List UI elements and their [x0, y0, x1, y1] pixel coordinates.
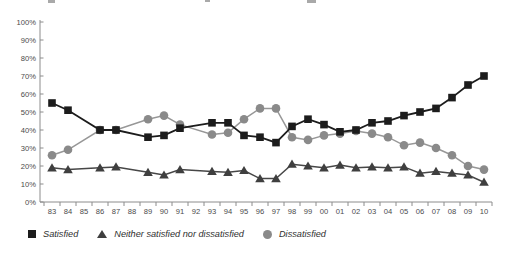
circle-data-point [144, 115, 153, 124]
y-axis-tick-label: 0% [25, 198, 36, 207]
x-axis-tick-label: 86 [96, 207, 104, 216]
x-axis-tick-label: 90 [160, 207, 168, 216]
y-axis-tick-label: 60% [21, 90, 36, 99]
x-axis-tick-label: 03 [368, 207, 376, 216]
legend-item-satisfied: Satisfied [28, 229, 78, 239]
legend-label-neither: Neither satisfied nor dissatisfied [114, 229, 244, 239]
square-data-point [48, 99, 56, 107]
circle-data-point [288, 133, 297, 142]
circle-data-point [320, 131, 329, 140]
circle-data-point [368, 129, 377, 138]
x-axis-tick-label: 00 [320, 207, 328, 216]
legend-label-satisfied: Satisfied [43, 229, 78, 239]
circle-data-point [432, 144, 441, 153]
square-data-point [416, 108, 424, 116]
square-data-point [304, 115, 312, 123]
square-data-point [144, 133, 152, 141]
triangle-data-point [239, 166, 249, 174]
y-axis-tick-label: 20% [21, 162, 36, 171]
square-data-point [400, 112, 408, 120]
circle-data-point [416, 138, 425, 147]
x-axis-tick-label: 96 [256, 207, 264, 216]
square-data-point [160, 132, 168, 140]
x-axis-tick-label: 91 [176, 207, 184, 216]
square-data-point [448, 94, 456, 102]
square-data-point [272, 139, 280, 147]
square-data-point [288, 123, 296, 131]
x-axis-tick-label: 08 [448, 207, 456, 216]
y-axis-tick-label: 40% [21, 126, 36, 135]
x-axis-tick-label: 94 [224, 207, 232, 216]
circle-data-point [160, 111, 169, 120]
x-axis-tick-label: 10 [480, 207, 488, 216]
circle-data-point [208, 130, 217, 139]
square-data-point [176, 124, 184, 132]
circle-data-point [272, 104, 281, 113]
circle-data-point [256, 104, 265, 113]
circle-data-point [448, 151, 457, 160]
triangle-data-point [335, 161, 345, 169]
y-axis-tick-label: 80% [21, 54, 36, 63]
x-axis-tick-label: 85 [80, 207, 88, 216]
x-axis-tick-label: 88 [128, 207, 136, 216]
circle-data-point [64, 146, 73, 155]
y-axis-tick-label: 90% [21, 36, 36, 45]
y-axis-tick-label: 100% [17, 18, 37, 27]
x-axis-tick-label: 05 [400, 207, 408, 216]
square-data-point [352, 126, 360, 134]
x-axis-tick-label: 84 [64, 207, 72, 216]
line-chart-canvas: 0%10%20%30%40%50%60%70%80%90%100%8384858… [0, 0, 505, 225]
y-axis-tick-label: 70% [21, 72, 36, 81]
square-data-point [64, 106, 72, 114]
square-data-point [464, 81, 472, 89]
square-data-point [240, 132, 248, 140]
circle-marker-icon [263, 230, 272, 239]
x-axis-tick-label: 02 [352, 207, 360, 216]
square-data-point [336, 128, 344, 136]
circle-data-point [464, 162, 473, 171]
circle-data-point [400, 141, 409, 150]
x-axis-tick-label: 89 [144, 207, 152, 216]
triangle-data-point [479, 178, 489, 186]
square-data-point [384, 117, 392, 125]
x-axis-tick-label: 09 [464, 207, 472, 216]
circle-data-point [480, 165, 489, 174]
legend-item-neither: Neither satisfied nor dissatisfied [97, 229, 244, 239]
square-data-point [96, 126, 104, 134]
x-axis-tick-label: 98 [288, 207, 296, 216]
square-marker-icon [28, 230, 36, 238]
triangle-data-point [47, 163, 57, 171]
x-axis-tick-label: 92 [192, 207, 200, 216]
chart-legend: Satisfied Neither satisfied nor dissatis… [28, 229, 326, 239]
circle-data-point [304, 136, 313, 145]
x-axis-tick-label: 83 [48, 207, 56, 216]
x-axis-tick-label: 87 [112, 207, 120, 216]
x-axis-tick-label: 01 [336, 207, 344, 216]
x-axis-tick-label: 93 [208, 207, 216, 216]
circle-data-point [224, 128, 233, 137]
triangle-marker-icon [97, 230, 107, 238]
square-data-point [480, 72, 488, 80]
legend-item-dissatisfied: Dissatisfied [263, 229, 326, 239]
y-axis-tick-label: 10% [21, 180, 36, 189]
circle-data-point [48, 151, 57, 160]
legend-label-dissatisfied: Dissatisfied [279, 229, 326, 239]
square-data-point [432, 105, 440, 113]
square-data-point [256, 133, 264, 141]
triangle-data-point [287, 160, 297, 168]
chart-panel: 0%10%20%30%40%50%60%70%80%90%100%8384858… [0, 0, 505, 260]
circle-data-point [240, 115, 249, 124]
x-axis-tick-label: 99 [304, 207, 312, 216]
triangle-data-point [431, 167, 441, 175]
x-axis-tick-label: 07 [432, 207, 440, 216]
x-axis-tick-label: 04 [384, 207, 392, 216]
x-axis-tick-label: 06 [416, 207, 424, 216]
square-data-point [320, 121, 328, 129]
y-axis-tick-label: 50% [21, 108, 36, 117]
square-data-point [224, 119, 232, 127]
x-axis-tick-label: 95 [240, 207, 248, 216]
square-data-point [208, 119, 216, 127]
square-data-point [368, 119, 376, 127]
x-axis-tick-label: 97 [272, 207, 280, 216]
circle-data-point [384, 133, 393, 142]
